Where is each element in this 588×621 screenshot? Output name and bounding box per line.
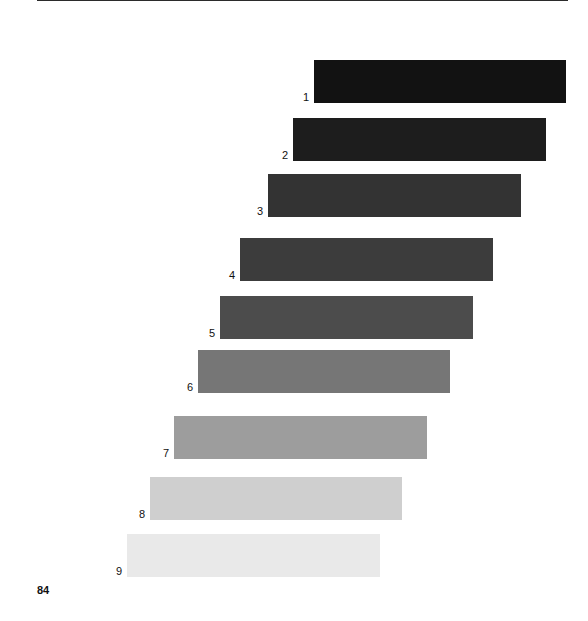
bar-label-1: 1 <box>289 92 309 103</box>
bar-5 <box>220 296 473 339</box>
bar-label-6: 6 <box>173 382 193 393</box>
bar-label-4: 4 <box>215 270 235 281</box>
bar-2 <box>293 118 546 161</box>
bar-label-5: 5 <box>195 328 215 339</box>
bar-9 <box>127 534 380 577</box>
bar-label-2: 2 <box>268 150 288 161</box>
rule-footer <box>37 0 568 1</box>
bar-8 <box>150 477 402 520</box>
bar-6 <box>198 350 450 393</box>
page-number: 84 <box>37 584 49 596</box>
bar-label-7: 7 <box>149 448 169 459</box>
bar-1 <box>314 60 566 103</box>
bar-label-9: 9 <box>102 566 122 577</box>
bar-7 <box>174 416 427 459</box>
bar-label-8: 8 <box>125 509 145 520</box>
bar-3 <box>268 174 521 217</box>
bar-label-3: 3 <box>243 206 263 217</box>
bar-4 <box>240 238 493 281</box>
figure-page: 1 2 3 4 5 6 7 8 9 84 <box>0 0 588 621</box>
